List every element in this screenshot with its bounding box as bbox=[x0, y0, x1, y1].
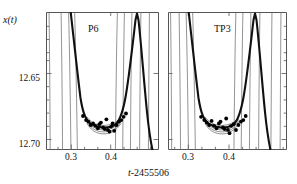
plot-panel-p6 bbox=[46, 12, 159, 150]
x-axis-tick-label-tp3-0: 0.3 bbox=[173, 152, 203, 162]
plot-svg-p6 bbox=[46, 12, 159, 150]
y-axis-tick-label-12-65: 12.65 bbox=[0, 73, 40, 83]
panel-label-p6: P6 bbox=[88, 23, 99, 34]
x-axis-tick-label-p6-1: 0.4 bbox=[96, 152, 126, 162]
y-axis-label: x(t) bbox=[3, 14, 17, 25]
x-axis-label-offset: -2455506 bbox=[131, 167, 169, 178]
figure-container: x(t) 12.65 12.70 bbox=[0, 0, 297, 184]
x-axis-label: t-2455506 bbox=[0, 167, 297, 178]
y-axis-tick-label-12-70: 12.70 bbox=[0, 139, 40, 149]
x-axis-tick-label-p6-0: 0.3 bbox=[56, 152, 86, 162]
x-axis-tick-label-tp3-1: 0.4 bbox=[214, 152, 244, 162]
panel-label-tp3: TP3 bbox=[214, 23, 231, 34]
